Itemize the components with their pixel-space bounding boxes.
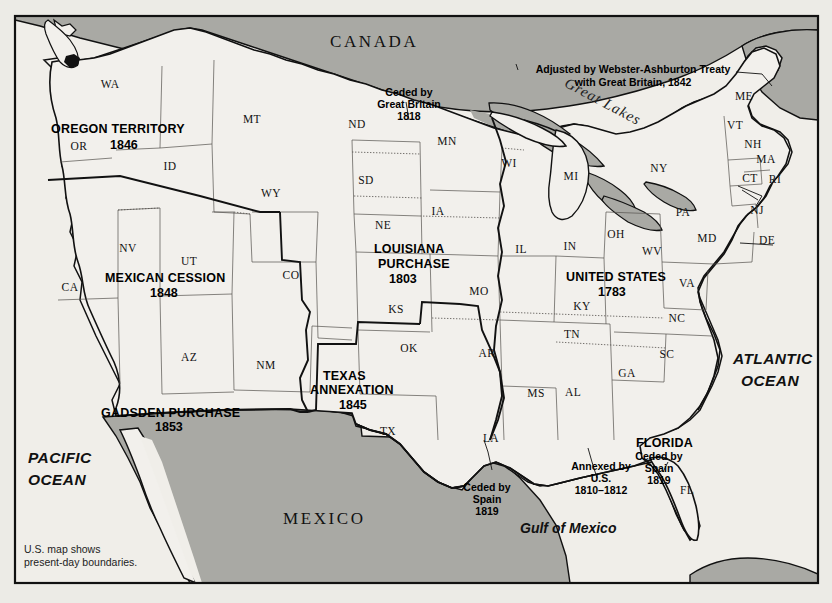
- state-label-ut: UT: [181, 255, 197, 267]
- territory-label-mexican-cession: MEXICAN CESSION: [105, 271, 225, 285]
- territory-year-gadsden-purchase: 1853: [155, 420, 183, 434]
- territory-label-gadsden-purchase: GADSDEN PURCHASE: [101, 406, 240, 420]
- state-label-ct: CT: [742, 172, 758, 184]
- territory-label-louisiana-line2: PURCHASE: [378, 257, 450, 271]
- state-label-sd: SD: [358, 174, 374, 186]
- state-label-ny: NY: [650, 162, 668, 174]
- territory-label-florida: FLORIDA: [636, 436, 693, 450]
- territory-year-mexican-cession: 1848: [150, 286, 178, 300]
- state-label-il: IL: [515, 243, 527, 255]
- state-label-pa: PA: [676, 206, 691, 218]
- callout-ceded-gb-1818-line1: Ceded by: [385, 86, 432, 98]
- territory-label-texas-line1: TEXAS: [323, 369, 366, 383]
- state-label-wy: WY: [261, 187, 281, 199]
- country-label-canada: CANADA: [330, 32, 418, 51]
- state-label-ne: NE: [375, 219, 391, 231]
- state-label-fl: FL: [680, 484, 694, 496]
- callout-ceded-gb-1818-line2: Great Britain: [377, 98, 441, 110]
- state-label-tn: TN: [564, 328, 580, 340]
- territory-year-united-states: 1783: [598, 285, 626, 299]
- territory-year-louisiana-purchase: 1803: [389, 272, 417, 286]
- state-label-nj: NJ: [750, 204, 764, 216]
- ocean-label-pacific-line2: OCEAN: [28, 471, 86, 488]
- state-label-ca: CA: [62, 281, 79, 293]
- territory-label-louisiana-line1: LOUISIANA: [374, 242, 445, 256]
- state-label-wa: WA: [101, 78, 120, 90]
- state-label-mn: MN: [437, 135, 457, 147]
- callout-ceded-spain-1819-texas-line2: Spain: [473, 493, 502, 505]
- state-label-va: VA: [679, 277, 695, 289]
- state-label-sc: SC: [660, 348, 675, 360]
- water-label-gulf-of-mexico: Gulf of Mexico: [520, 520, 617, 536]
- territory-year-oregon-territory: 1846: [110, 138, 138, 152]
- callout-ceded-spain-1819-florida-line1: Ceded by: [635, 450, 682, 462]
- state-label-nd: ND: [348, 118, 365, 130]
- callout-ceded-spain-1819-texas-line1: Ceded by: [463, 481, 510, 493]
- territory-year-texas-annexation: 1845: [339, 398, 367, 412]
- footnote-line2: present-day boundaries.: [24, 556, 137, 568]
- expansion-map: CANADA MEXICO PACIFIC OCEAN ATLANTIC OCE…: [0, 0, 832, 603]
- state-label-la: LA: [483, 432, 499, 444]
- state-label-mt: MT: [243, 113, 261, 125]
- state-label-nc: NC: [669, 312, 686, 324]
- ocean-label-atlantic-line1: ATLANTIC: [732, 350, 813, 367]
- state-label-mo: MO: [469, 285, 488, 297]
- state-label-me: ME: [735, 90, 753, 102]
- callout-ceded-spain-1819-texas-line3: 1819: [475, 505, 499, 517]
- callout-annexed-us-line1: Annexed by: [571, 460, 631, 472]
- state-label-id: ID: [164, 160, 177, 172]
- state-label-wv: WV: [642, 245, 662, 257]
- country-label-mexico: MEXICO: [283, 509, 366, 528]
- territory-label-texas-line2: ANNEXATION: [310, 383, 394, 397]
- state-label-wi: WI: [501, 157, 516, 169]
- state-label-ri: RI: [769, 173, 781, 185]
- state-label-in: IN: [564, 240, 577, 252]
- callout-webster-ashburton-line1: Adjusted by Webster-Ashburton Treaty: [536, 63, 731, 75]
- territory-label-united-states: UNITED STATES: [566, 270, 666, 284]
- state-label-tx: TX: [380, 425, 396, 437]
- state-label-ma: MA: [756, 153, 776, 165]
- state-label-nm: NM: [256, 359, 275, 371]
- state-label-ar: AR: [479, 347, 496, 359]
- state-label-de: DE: [759, 234, 775, 246]
- state-label-vt: VT: [727, 119, 743, 131]
- state-label-co: CO: [283, 269, 300, 281]
- state-label-ms: MS: [527, 387, 544, 399]
- state-label-az: AZ: [181, 351, 197, 363]
- state-label-nh: NH: [744, 138, 761, 150]
- callout-ceded-spain-1819-florida-line3: 1819: [647, 474, 671, 486]
- map-canvas: CANADA MEXICO PACIFIC OCEAN ATLANTIC OCE…: [0, 0, 832, 603]
- callout-annexed-us-line2: U.S.: [591, 472, 612, 484]
- state-label-oh: OH: [607, 228, 624, 240]
- footnote-line1: U.S. map shows: [24, 543, 100, 555]
- state-label-md: MD: [697, 232, 716, 244]
- ocean-label-atlantic-line2: OCEAN: [741, 372, 799, 389]
- callout-annexed-us-line3: 1810–1812: [575, 484, 628, 496]
- state-label-ok: OK: [400, 342, 418, 354]
- territory-label-oregon-territory: OREGON TERRITORY: [51, 122, 185, 136]
- state-label-nv: NV: [119, 242, 137, 254]
- callout-ceded-gb-1818-line3: 1818: [397, 110, 421, 122]
- callout-ceded-spain-1819-florida-line2: Spain: [645, 462, 674, 474]
- ocean-label-pacific-line1: PACIFIC: [28, 449, 92, 466]
- state-label-ky: KY: [573, 300, 591, 312]
- state-label-ga: GA: [618, 367, 636, 379]
- callout-webster-ashburton-line2: with Great Britain, 1842: [574, 76, 692, 88]
- state-label-ia: IA: [432, 205, 445, 217]
- state-label-al: AL: [565, 386, 581, 398]
- state-label-mi: MI: [564, 170, 579, 182]
- state-label-ks: KS: [388, 303, 404, 315]
- state-label-or: OR: [71, 140, 88, 152]
